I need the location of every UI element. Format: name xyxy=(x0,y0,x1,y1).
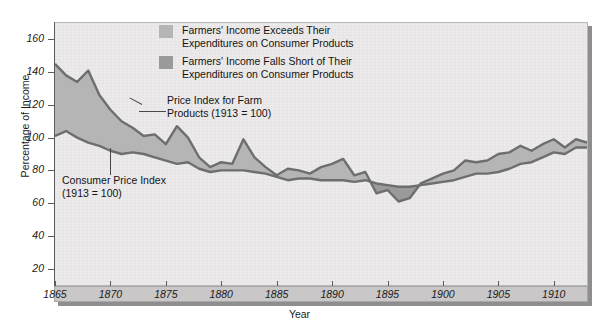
x-tick-1895 xyxy=(388,281,389,286)
x-tick-label-1895: 1895 xyxy=(376,288,399,300)
y-tick-80 xyxy=(48,170,54,171)
farm-annotation-leader-line xyxy=(139,111,166,112)
x-tick-label-1900: 1900 xyxy=(431,288,454,300)
x-tick-1875 xyxy=(166,281,167,286)
legend-swatch-icon-exceeds xyxy=(159,25,173,38)
x-tick-label-1910: 1910 xyxy=(542,288,565,300)
x-tick-1870 xyxy=(110,281,111,286)
x-tick-1885 xyxy=(277,281,278,286)
x-tick-label-1890: 1890 xyxy=(320,288,343,300)
x-axis-label: Year xyxy=(0,308,599,320)
y-tick-label-20: 20 xyxy=(0,262,44,274)
x-tick-label-1880: 1880 xyxy=(210,288,233,300)
y-tick-160 xyxy=(48,39,54,40)
x-tick-1890 xyxy=(332,281,333,286)
y-axis-line xyxy=(54,22,55,286)
y-tick-40 xyxy=(48,236,54,237)
x-tick-label-1885: 1885 xyxy=(265,288,288,300)
legend-label-exceeds: Farmers' Income Exceeds Their Expenditur… xyxy=(182,24,354,49)
x-tick-1865 xyxy=(55,281,56,286)
x-tick-label-1905: 1905 xyxy=(487,288,510,300)
y-tick-100 xyxy=(48,138,54,139)
legend-label-short: Farmers' Income Falls Short of Their Exp… xyxy=(182,55,354,80)
x-tick-label-1870: 1870 xyxy=(99,288,122,300)
x-tick-label-1875: 1875 xyxy=(154,288,177,300)
y-tick-120 xyxy=(48,105,54,106)
y-axis-label: Percentage of Income xyxy=(19,46,31,206)
x-tick-1900 xyxy=(443,281,444,286)
y-tick-140 xyxy=(48,72,54,73)
y-tick-label-40: 40 xyxy=(0,229,44,241)
farm-index-annotation: Price Index for Farm Products (1913 = 10… xyxy=(167,94,271,119)
x-tick-1880 xyxy=(221,281,222,286)
chart-figure: 20406080100120140160 Percentage of Incom… xyxy=(0,0,599,328)
y-tick-60 xyxy=(48,203,54,204)
legend-swatch-icon-short xyxy=(159,56,173,69)
x-tick-1910 xyxy=(554,281,555,286)
legend-item-income-exceeds: Farmers' Income Exceeds Their Expenditur… xyxy=(159,24,354,49)
legend-item-income-short: Farmers' Income Falls Short of Their Exp… xyxy=(159,55,354,80)
chart-legend: Farmers' Income Exceeds Their Expenditur… xyxy=(159,24,354,86)
x-tick-label-1865: 1865 xyxy=(43,288,66,300)
x-tick-1905 xyxy=(498,281,499,286)
cpi-annotation-leader-line xyxy=(110,148,111,175)
y-tick-20 xyxy=(48,269,54,270)
cpi-annotation: Consumer Price Index (1913 = 100) xyxy=(62,174,166,199)
y-tick-label-160: 160 xyxy=(0,32,44,44)
